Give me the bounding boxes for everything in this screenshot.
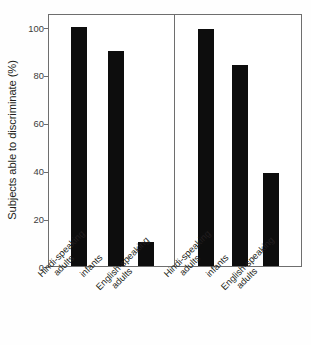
plot-area xyxy=(48,14,302,267)
y-tick-label-100: 100 xyxy=(22,24,44,33)
y-tick-label-60: 60 xyxy=(22,119,44,128)
bar-right-infants xyxy=(232,65,248,266)
y-axis-title: Subjects able to discriminate (%) xyxy=(6,60,18,220)
y-tick-label-80: 80 xyxy=(22,71,44,80)
x-axis-category-labels: Hindi-speaking adults infants English-sp… xyxy=(0,267,311,345)
bar-chart-figure: Subjects able to discriminate (%) 100 80… xyxy=(0,0,311,345)
panel-divider xyxy=(174,15,175,266)
y-tick-label-40: 40 xyxy=(22,167,44,176)
y-tick-label-20: 20 xyxy=(22,215,44,224)
y-axis-title-container: Subjects able to discriminate (%) xyxy=(0,0,24,280)
bar-left-infants xyxy=(108,51,124,266)
